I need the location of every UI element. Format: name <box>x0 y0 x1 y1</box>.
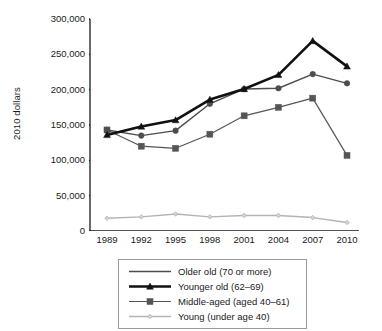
chart-legend: Older old (70 or more)Younger old (62–69… <box>118 259 307 329</box>
legend-item-label: Young (under age 40) <box>178 311 270 322</box>
legend-item: Middle-aged (aged 40–61) <box>119 294 306 309</box>
legend-swatch-icon <box>128 265 172 278</box>
legend-item: Younger old (62–69) <box>119 279 306 294</box>
legend-swatch-icon <box>128 310 172 323</box>
chart-figure: 2010 dollars 050,000100,000150,000200,00… <box>0 0 382 331</box>
series-line <box>105 212 349 225</box>
legend-swatch-icon <box>128 295 172 308</box>
y-axis-tick-label: 50,000 <box>29 191 85 201</box>
legend-swatch-icon <box>128 280 172 293</box>
y-axis-title: 2010 dollars <box>11 69 22 159</box>
y-axis-tick-label: 0 <box>29 226 85 236</box>
line-chart-svg <box>89 16 361 231</box>
axis-lines <box>90 19 359 231</box>
plot-area <box>89 16 361 231</box>
y-axis-tick-label: 200,000 <box>29 85 85 95</box>
series-line <box>104 38 351 138</box>
y-axis-tick-label: 250,000 <box>29 49 85 59</box>
y-axis-tick-labels: 050,000100,000150,000200,000250,000300,0… <box>25 0 85 331</box>
y-axis-tick-label: 100,000 <box>29 155 85 165</box>
legend-item-label: Middle-aged (aged 40–61) <box>178 296 289 307</box>
legend-item: Older old (70 or more) <box>119 264 306 279</box>
legend-item: Young (under age 40) <box>119 309 306 324</box>
legend-item-label: Older old (70 or more) <box>178 266 271 277</box>
x-axis-tick-labels: 19891992199519982001200420072010 <box>89 234 361 248</box>
y-axis-tick-label: 150,000 <box>29 120 85 130</box>
legend-item-label: Younger old (62–69) <box>178 281 264 292</box>
x-axis-tick-label: 2010 <box>327 234 367 245</box>
y-axis-tick-label: 300,000 <box>29 14 85 24</box>
